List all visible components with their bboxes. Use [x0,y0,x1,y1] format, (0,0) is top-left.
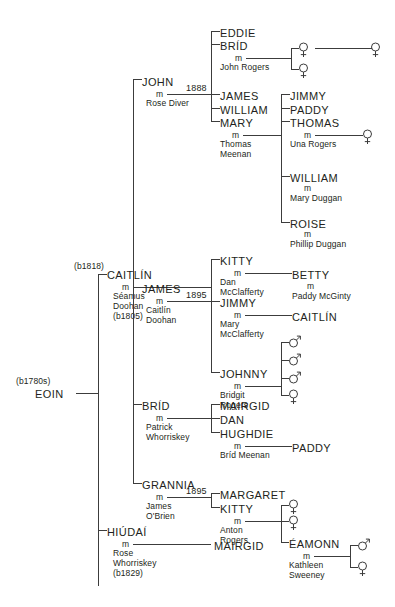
grannia-spouse-2: O'Brien [146,512,175,522]
male-symbol [288,352,299,367]
mairgid-hiudai-name: MAIRGID [214,540,264,552]
hiudai-spouse-born: (b1829) [113,569,143,579]
john-branch [133,79,142,80]
william-mary-m: m [304,184,311,193]
hiudai-name: HIÚDAÍ [107,526,147,538]
male-symbol [288,334,299,349]
john-name: JOHN [142,76,174,88]
betty-spouse: Paddy McGinty [292,292,351,302]
female-symbol [288,499,299,514]
eamonn-spouse-2: Sweeney [289,571,325,581]
james-john-branch [211,94,220,95]
william-john-branch [211,108,220,109]
john-marriage-line [167,94,211,95]
grannia-branch [133,483,142,484]
jimmy-james-spouse-2: McClafferty [220,330,264,340]
eoin-stub-line [76,393,98,394]
caitlin-g1-born: (b1818) [74,262,104,272]
caitlin-g1-children-spine [133,79,134,483]
james-john-name: JAMES [220,90,259,102]
dan-brid-branch [211,418,220,419]
jimmy-mary-branch [281,94,290,95]
brid-g2-spouse-2: Whorriskey [146,433,190,443]
paddy-hughdie-name: PADDY [292,442,331,454]
brid-john-marriage-line [246,58,291,59]
johnny-james-name: JOHNNY [220,368,268,380]
james-g2-name: JAMES [142,283,181,295]
james-g2-marriage-year: 1895 [186,291,207,300]
jimmy-james-branch [211,301,220,302]
genealogy-chart: (b1780s) EOIN (b1818) CAITLÍN m Séamus D… [0,0,395,607]
james-g2-marriage-line [167,301,211,302]
paddy-mary-branch [281,108,290,109]
male-symbol [288,370,299,385]
james-g2-spouse-2: Doohan [146,316,176,326]
eamonn-children-spine [350,545,351,567]
eamonn-name: ÉAMONN [289,538,340,550]
eoin-name: EOIN [35,388,64,400]
paddy-mary-name: PADDY [290,104,329,116]
mairgid-brid-name: MAIRGID [220,400,270,412]
brid-g2-marriage-line [167,418,211,419]
hiudai-branch [98,530,107,531]
william-mary-spouse: Mary Duggan [290,194,342,204]
kitty-gr-children-spine [281,505,282,542]
brid-g2-branch [133,404,142,405]
margaret-gr-branch [211,493,220,494]
thomas-mary-marriage-line [315,135,363,136]
william-john-name: WILLIAM [220,104,268,116]
william-mary-branch [281,176,290,177]
brid-john-grandchild-line [315,48,372,49]
mary-john-name: MARY [220,117,253,129]
hughdie-branch [211,432,220,433]
kitty-james-name: KITTY [220,255,253,267]
john-marriage-year: 1888 [186,84,207,93]
caitlin-g1-spouse-born: (b1805) [113,312,143,322]
jimmy-james-marriage-line [245,315,292,316]
female-symbol [362,129,373,144]
eamonn-branch [281,542,289,543]
kitty-gr-branch [211,507,220,508]
johnny-james-marriage-line [245,386,281,387]
grannia-marriage-year: 1895 [186,487,207,496]
mary-john-marriage-line [243,135,281,136]
betty-name: BETTY [292,269,329,281]
caitlin-g1-branch [98,274,107,275]
jimmy-james-name: JIMMY [220,297,256,309]
kitty-james-branch [211,259,220,260]
mary-john-spouse-2: Meenan [220,150,251,160]
johnny-children-spine [281,342,282,395]
thomas-mary-spouse: Una Rogers [290,140,336,150]
roise-mary-branch [281,222,290,223]
brid-john-branch [211,44,220,45]
roise-mary-spouse: Phillip Duggan [290,240,346,250]
mary-john-children-spine [281,94,282,222]
female-symbol [298,42,309,57]
hiudai-marriage-line [133,544,211,545]
male-symbol [357,537,368,552]
kitty-james-marriage-line [245,273,292,274]
eddie-name: EDDIE [220,27,256,39]
kitty-gr-marriage-line [245,521,281,522]
kitty-gr-name: KITTY [220,503,253,515]
female-symbol [357,561,368,576]
hughdie-name: HUGHDIE [220,428,274,440]
caitlin-g1-name: CAITLÍN [107,269,152,281]
female-symbol [288,515,299,530]
eddie-branch [211,31,220,32]
grannia-marriage-line [167,497,211,498]
brid-john-children-spine [291,48,292,69]
brid-g2-name: BRÍD [142,400,170,412]
john-spouse: Rose Diver [146,99,189,109]
brid-john-name: BRÍD [220,40,248,52]
eamonn-marriage-line [314,556,350,557]
betty-m: m [307,282,314,291]
female-symbol [370,42,381,57]
thomas-mary-name: THOMAS [290,117,339,129]
female-symbol [298,63,309,78]
dan-brid-name: DAN [220,414,244,426]
eoin-spine [98,274,99,586]
james-g2-children-spine [211,259,212,372]
female-symbol [288,389,299,404]
mairgid-brid-branch [211,404,220,405]
